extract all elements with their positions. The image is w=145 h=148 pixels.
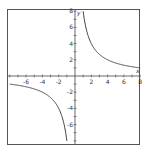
y-tick-label: 6 <box>69 23 73 30</box>
x-tick-label: 4 <box>106 78 110 85</box>
y-axis-label: y <box>76 9 81 17</box>
y-tick-label: 2 <box>69 56 73 63</box>
y-tick-label: -4 <box>67 104 73 111</box>
x-tick-label: 2 <box>89 78 93 85</box>
y-tick-label: 4 <box>69 40 73 47</box>
y-tick-label: -2 <box>67 88 73 95</box>
x-tick-label: 6 <box>122 78 126 85</box>
x-tick-label: -2 <box>56 78 62 85</box>
x-tick-label: -4 <box>39 78 45 85</box>
x-tick-label: -6 <box>23 78 29 85</box>
y-tick-label: 8 <box>69 7 73 14</box>
y-tick-label: -6 <box>67 121 73 128</box>
plot-frame <box>8 10 140 145</box>
hyperbola-chart: xy -6-4-224688642-2-4-6 <box>0 0 145 148</box>
x-tick-label: 8 <box>138 78 142 85</box>
